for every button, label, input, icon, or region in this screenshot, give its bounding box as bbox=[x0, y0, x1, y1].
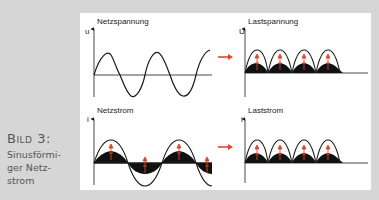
axis-label-u: u bbox=[85, 27, 89, 36]
axis-label-i: i bbox=[87, 115, 89, 124]
transform-arrow-bottom bbox=[218, 144, 233, 150]
graph-title-netzstrom: Netzstrom bbox=[97, 106, 134, 115]
waveform-diagram: Netzspannung u Lastspannung U Netzstrom … bbox=[0, 0, 379, 200]
graph-netzstrom: Netzstrom i bbox=[87, 106, 212, 186]
graph-laststrom: Laststrom i bbox=[241, 106, 368, 183]
graph-title-netzspannung: Netzspannung bbox=[97, 17, 149, 26]
axis-label-U: U bbox=[239, 27, 245, 36]
graph-title-laststrom: Laststrom bbox=[248, 106, 283, 115]
graph-lastspannung: Lastspannung U bbox=[239, 17, 368, 97]
axis-label-i: i bbox=[241, 115, 243, 124]
graph-title-lastspannung: Lastspannung bbox=[248, 17, 298, 26]
transform-arrow-top bbox=[218, 54, 233, 60]
sine-voltage-curve bbox=[94, 50, 210, 97]
graph-netzspannung: Netzspannung u bbox=[85, 17, 212, 97]
